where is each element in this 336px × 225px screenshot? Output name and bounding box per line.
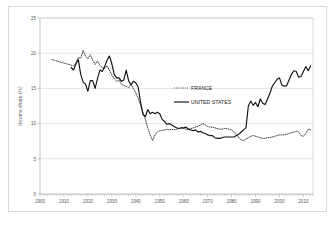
y-tick-label-0: 0 <box>33 192 36 197</box>
x-tick-label-1940: 1940 <box>131 199 142 204</box>
y-tick-label-5: 5 <box>33 157 36 162</box>
plot-background <box>40 18 313 194</box>
y-tick-label-15: 15 <box>31 86 37 91</box>
x-tick-label-1930: 1930 <box>107 199 118 204</box>
y-axis-ticks: 0510152025 <box>31 16 40 197</box>
chart-plot-container: 0510152025 19001910192019301940195019601… <box>0 0 336 225</box>
x-tick-label-1960: 1960 <box>179 199 190 204</box>
x-tick-label-2000: 2000 <box>274 199 285 204</box>
y-axis-title: Income share (%) <box>17 86 23 126</box>
x-tick-label-1990: 1990 <box>250 199 261 204</box>
y-tick-label-25: 25 <box>31 16 37 21</box>
chart-figure: 0510152025 19001910192019301940195019601… <box>0 0 336 225</box>
x-tick-label-1900: 1900 <box>35 199 46 204</box>
x-tick-label-1910: 1910 <box>59 199 70 204</box>
y-tick-label-20: 20 <box>31 51 37 56</box>
x-axis-ticks: 1900191019201930194019501960197019801990… <box>35 194 313 204</box>
y-tick-label-10: 10 <box>31 121 37 126</box>
x-tick-label-1950: 1950 <box>155 199 166 204</box>
x-tick-label-1980: 1980 <box>226 199 237 204</box>
line-chart-svg: 0510152025 19001910192019301940195019601… <box>0 0 336 225</box>
legend-label-france: FRANCE <box>191 85 213 91</box>
legend-label-united-states: UNITED STATES <box>191 99 232 105</box>
x-tick-label-2010: 2010 <box>298 199 309 204</box>
x-tick-label-1970: 1970 <box>203 199 214 204</box>
x-tick-label-1920: 1920 <box>83 199 94 204</box>
